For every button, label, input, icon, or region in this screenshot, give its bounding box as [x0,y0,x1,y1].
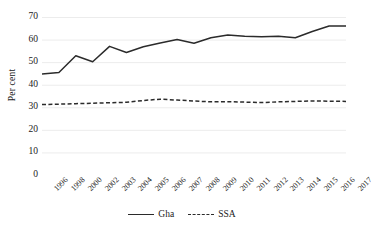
y-tick-label: 30 [18,102,38,112]
x-tick-label: 2003 [120,176,137,193]
legend-item-gha[interactable]: Gha [128,209,174,219]
plot-area [42,17,346,175]
x-tick-label: 2006 [171,176,188,193]
y-tick-label: 0 [18,170,38,180]
x-tick-label: 2010 [238,176,255,193]
x-tick-label: 2007 [188,176,205,193]
legend-swatch-ssa [188,214,214,215]
y-axis-tick-labels: 706050403020100 [16,0,38,226]
x-tick-label: 1996 [53,176,70,193]
y-tick-label: 40 [18,80,38,90]
y-tick-label: 10 [18,147,38,157]
x-tick-label: 2008 [205,176,222,193]
series-line-ssa [42,99,346,104]
x-tick-label: 2000 [86,176,103,193]
x-tick-label: 2013 [289,176,306,193]
x-tick-label: 2012 [272,176,289,193]
y-tick-label: 60 [18,35,38,45]
legend-label: Gha [158,209,174,219]
series-line-gha [42,26,346,74]
x-tick-label: 2016 [340,176,357,193]
plot-svg [42,17,346,175]
x-tick-label: 2011 [255,176,272,193]
x-tick-label: 2004 [137,176,154,193]
legend-item-ssa[interactable]: SSA [188,209,235,219]
x-tick-label: 2005 [154,176,171,193]
y-tick-label: 70 [18,12,38,22]
x-tick-label: 1998 [70,176,87,193]
chart-legend: GhaSSA [0,205,364,223]
legend-label: SSA [218,209,235,219]
x-tick-label: 2017 [357,176,374,193]
y-tick-label: 20 [18,125,38,135]
y-tick-label: 50 [18,57,38,67]
gridlines [42,18,346,176]
x-tick-label: 2009 [222,176,239,193]
x-tick-label: 2015 [323,176,340,193]
x-tick-label: 2002 [103,176,120,193]
x-tick-label: 2014 [306,176,323,193]
series-lines [42,26,346,105]
legend-swatch-gha [128,214,154,215]
